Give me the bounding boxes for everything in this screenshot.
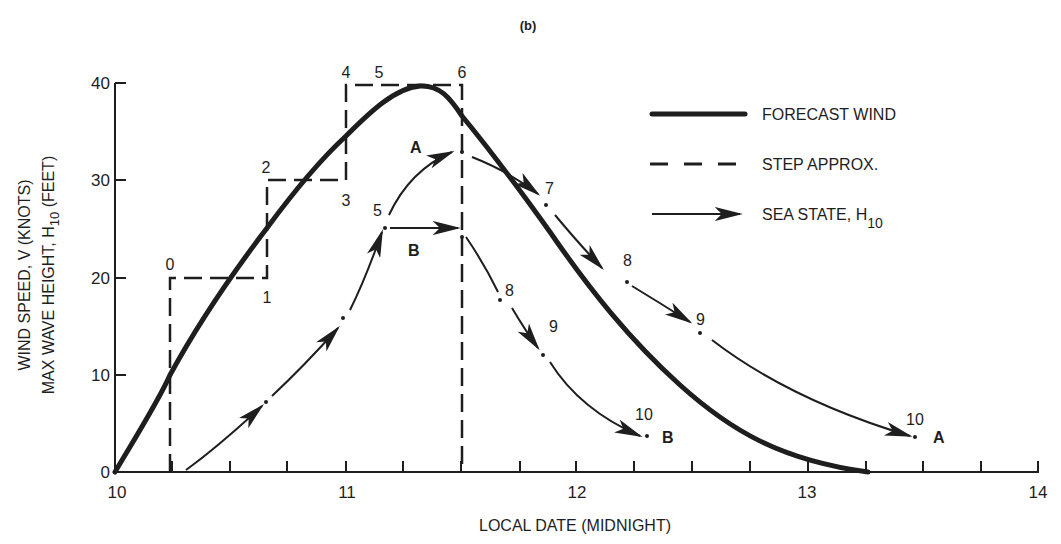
sea-state-labels: 5 A 7 8 9 10 A B 8 9 10 B	[373, 139, 945, 446]
chart-title: (b)	[520, 18, 537, 33]
step-label-2: 2	[262, 159, 271, 176]
y-tick-30: 30	[91, 171, 110, 190]
x-axis-label: LOCAL DATE (MIDNIGHT)	[479, 517, 671, 534]
sea-a-label-A: A	[410, 139, 422, 156]
step-label-0: 0	[166, 256, 175, 273]
x-tick-14: 14	[1029, 483, 1048, 502]
sea-a-label-end: A	[933, 429, 945, 446]
sea-b-label-8: 8	[505, 282, 514, 299]
sea-a-label-7: 7	[545, 180, 554, 197]
chart: (b) 40 30 20 10 0 10 11	[0, 0, 1061, 544]
y-axis-label-line2: MAX WAVE HEIGHT, H10 (FEET)	[40, 156, 62, 394]
sea-b-label-end: B	[662, 429, 674, 446]
sea-state-a-path	[186, 152, 910, 470]
step-label-5: 5	[375, 64, 384, 81]
step-label-1: 1	[263, 289, 272, 306]
sea-state-b-path	[390, 228, 640, 436]
x-tick-13: 13	[798, 483, 817, 502]
step-label-3: 3	[342, 192, 351, 209]
x-tick-10: 10	[108, 483, 127, 502]
sea-b-label-10: 10	[635, 406, 653, 423]
sea-a-label-9: 9	[696, 311, 705, 328]
sea-a-label-5: 5	[373, 202, 382, 219]
legend-forecast-label: FORECAST WIND	[762, 106, 896, 123]
legend-sea-label: SEA STATE, H10	[762, 206, 883, 231]
y-tick-20: 20	[91, 269, 110, 288]
step-label-4: 4	[342, 64, 351, 81]
sea-a-label-10: 10	[906, 411, 924, 428]
step-point-labels: 0 1 2 3 4 5 6	[166, 64, 467, 306]
y-tick-0: 0	[101, 463, 110, 482]
x-tick-11: 11	[338, 483, 356, 502]
y-tick-10: 10	[91, 366, 110, 385]
sea-state-points	[264, 150, 917, 439]
y-tick-40: 40	[91, 74, 110, 93]
sea-b-label-9: 9	[549, 318, 558, 335]
x-tick-labels: 10 11 12 13 14	[108, 483, 1048, 502]
step-label-6: 6	[458, 64, 467, 81]
x-tick-12: 12	[568, 483, 587, 502]
y-tick-labels: 40 30 20 10 0	[91, 74, 110, 482]
legend: FORECAST WIND STEP APPROX. SEA STATE, H1…	[650, 106, 896, 231]
sea-a-label-8: 8	[623, 252, 632, 269]
legend-step-label: STEP APPROX.	[762, 156, 878, 173]
sea-b-label-B: B	[408, 242, 420, 259]
y-axis-label-line1: WIND SPEED, V (KNOTS)	[16, 179, 33, 370]
